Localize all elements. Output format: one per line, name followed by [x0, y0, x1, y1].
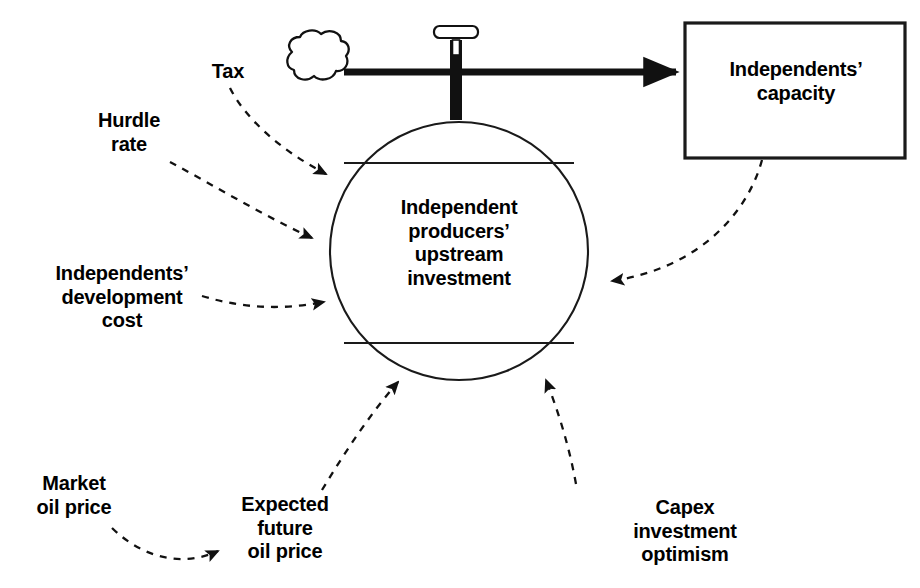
influence-arrow-expected-future-oil-price: [322, 382, 398, 490]
label-capex-investment-optimism: Capex investment optimism: [602, 496, 768, 567]
label-independents-development-cost: Independents’ development cost: [34, 262, 210, 333]
label-hurdle-rate: Hurdle rate: [74, 109, 184, 156]
label-expected-future-oil-price: Expected future oil price: [216, 493, 354, 564]
diagram-canvas: Tax Hurdle rate Independents’ developmen…: [0, 0, 920, 588]
influence-arrow-hurdle-rate: [170, 162, 312, 238]
influence-arrow-capacity-feedback: [612, 160, 762, 281]
label-independents-capacity: Independents’ capacity: [700, 58, 892, 105]
influence-arrow-tax: [230, 88, 326, 174]
influence-arrow-capex-optimism: [546, 380, 576, 484]
label-market-oil-price: Market oil price: [6, 472, 142, 519]
influence-arrow-market-oil-price: [112, 528, 218, 559]
influence-arrow-development-cost: [202, 296, 324, 307]
label-tax: Tax: [196, 60, 260, 84]
cloud-source-icon: [287, 30, 348, 79]
label-stock-upstream-investment: Independent producers’ upstream investme…: [382, 196, 536, 290]
